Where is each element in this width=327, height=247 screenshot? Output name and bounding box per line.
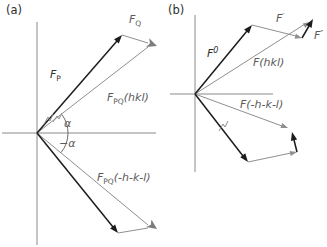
label-fdprime: F″: [314, 29, 323, 42]
label-alpha: α: [64, 117, 72, 130]
label-fprime: F′: [276, 12, 284, 25]
arrowhead-fprime-icon: [295, 34, 303, 41]
label-fpq-hkl: FPQ(hkl): [107, 91, 149, 106]
label-f-neg: F(-h-k-l): [240, 98, 283, 111]
vector-fq-mirror: [118, 228, 148, 233]
panel-b-tag: (b): [168, 3, 184, 17]
vector-diagram-canvas: (a) FP: [0, 0, 327, 247]
label-f-hkl: F(hkl): [253, 56, 284, 69]
panel-b: (b): [168, 3, 323, 172]
label-neg-alpha: −α: [59, 137, 76, 150]
arrowhead-fpq-neg-icon: [146, 219, 159, 232]
vector-fprime-mirror: [248, 153, 291, 162]
panel-a-tag: (a): [6, 3, 22, 17]
crystallography-vector-figure: (a) FP: [0, 0, 327, 247]
vector-fdprime-mirror: [294, 140, 297, 152]
label-fq: FQ: [129, 13, 141, 28]
panel-a: (a) FP: [2, 3, 160, 245]
arrowhead-f-neg-icon: [281, 123, 289, 130]
label-f0: F0: [207, 46, 218, 60]
vector-fpq-hkl: [37, 47, 148, 133]
vector-f0: [195, 31, 247, 94]
label-fp: FP: [50, 68, 61, 83]
label-fpq-neg: FPQ(-h-k-l): [97, 171, 151, 186]
arrowhead-fdprime-mirror-icon: [289, 131, 297, 141]
vector-fprime: [252, 25, 296, 36]
arrowhead-fpq-hkl-icon: [146, 38, 159, 50]
vector-fq: [122, 35, 148, 43]
